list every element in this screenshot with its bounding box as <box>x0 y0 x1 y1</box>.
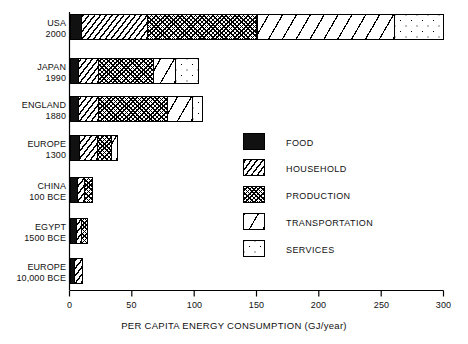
bar-segment-transportation <box>167 96 193 122</box>
energy-consumption-chart: USA 2000 JAPAN 1990 ENGLAND 1880 EUROPE … <box>0 0 468 344</box>
bar-segment-household <box>78 58 99 84</box>
bar-segment-services <box>175 58 198 84</box>
bar-segment-transportation <box>111 135 118 161</box>
bar-segment-services <box>394 14 445 40</box>
xtick-300: 300 <box>431 300 456 310</box>
legend-swatch-food <box>243 133 265 150</box>
bar-segment-transportation <box>153 58 176 84</box>
bar-segment-transportation <box>257 14 395 40</box>
xtick-50: 50 <box>119 300 144 310</box>
bar-segment-household <box>81 14 148 40</box>
xtick-250: 250 <box>369 300 394 310</box>
bar-segment-services <box>192 96 203 122</box>
x-axis-title: PER CAPITA ENERGY CONSUMPTION (GJ/year) <box>0 320 468 331</box>
legend-swatch-production <box>243 186 265 203</box>
bars-layer <box>0 0 468 344</box>
xtick-150: 150 <box>244 300 269 310</box>
bar-segment-production <box>147 14 258 40</box>
bar-segment-production <box>98 96 168 122</box>
legend-swatch-services <box>243 240 265 257</box>
legend-label-household: HOUSEHOLD <box>286 164 347 174</box>
legend-swatch-household <box>243 159 265 176</box>
bar-segment-household <box>78 96 99 122</box>
xtick-100: 100 <box>182 300 207 310</box>
xtick-200: 200 <box>306 300 331 310</box>
legend-swatch-transportation <box>243 213 265 230</box>
bar-segment-production <box>81 218 88 244</box>
bar-segment-production <box>84 177 92 203</box>
legend-label-services: SERVICES <box>286 245 335 255</box>
bar-segment-production <box>97 135 112 161</box>
legend-label-transportation: TRANSPORTATION <box>286 218 373 228</box>
xtick-0: 0 <box>57 300 82 310</box>
bar-segment-production <box>98 58 154 84</box>
legend-label-production: PRODUCTION <box>286 191 351 201</box>
bar-segment-household <box>79 135 97 161</box>
bar-segment-household <box>74 258 82 284</box>
legend-label-food: FOOD <box>286 138 314 148</box>
